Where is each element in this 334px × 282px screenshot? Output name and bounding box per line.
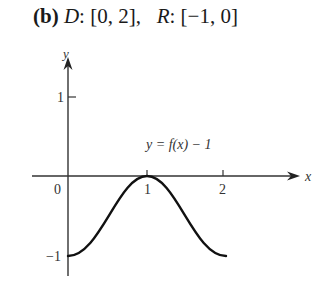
x-tick-label-2: 2 (219, 182, 226, 197)
x-axis-label: x (304, 169, 312, 184)
y-tick-label-1: 1 (57, 90, 64, 105)
y-axis-label: y (61, 46, 69, 61)
x-tick-label-1: 1 (144, 182, 151, 197)
y-tick-label-minus1: −1 (46, 249, 61, 264)
plot-area: y x 1 −1 0 1 2 y = f(x) − 1 (0, 0, 334, 282)
curve-annotation: y = f(x) − 1 (144, 137, 212, 153)
x-tick-label-0: 0 (54, 182, 61, 197)
